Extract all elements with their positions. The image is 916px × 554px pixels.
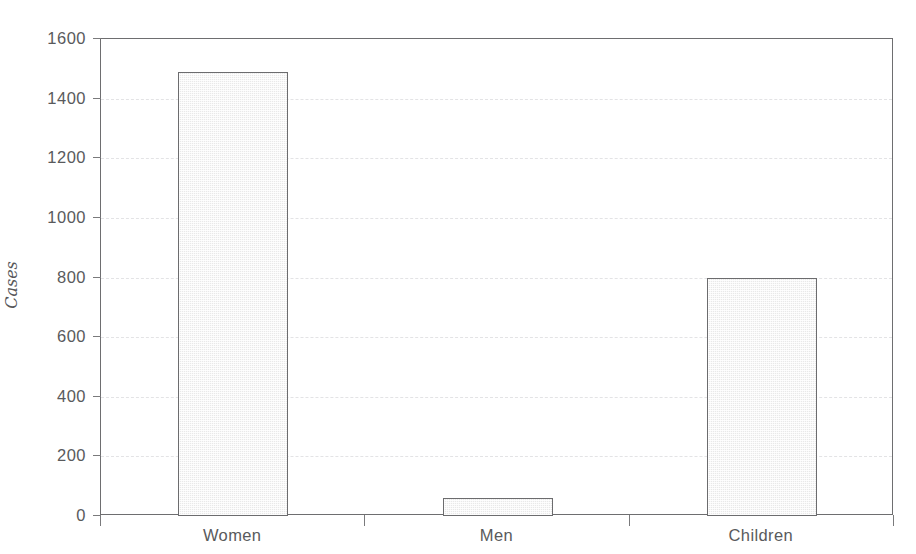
x-axis-end-tick <box>893 515 894 526</box>
y-axis-title: Cases <box>2 261 21 309</box>
y-axis-tick <box>93 98 101 99</box>
bar-women <box>178 72 288 516</box>
x-axis-end-tick <box>100 515 101 526</box>
y-axis-tick <box>93 336 101 337</box>
y-axis-tick-label: 600 <box>57 327 86 346</box>
x-axis-tick <box>629 515 630 526</box>
x-axis-tick <box>364 515 365 526</box>
y-axis-tick-label: 200 <box>57 446 86 465</box>
y-axis-tick-label: 400 <box>57 386 86 405</box>
y-axis-tick-label: 1200 <box>47 148 86 167</box>
y-axis-tick-label: 1600 <box>47 29 86 48</box>
y-axis-tick <box>93 38 101 39</box>
y-axis-tick <box>93 217 101 218</box>
y-axis-tick <box>93 396 101 397</box>
plot-area <box>100 38 893 515</box>
x-axis-tick-label: Children <box>729 526 794 545</box>
y-axis-tick-label: 1400 <box>47 88 86 107</box>
y-axis-tick-label: 1000 <box>47 207 86 226</box>
bar-chart: Cases 02004006008001000120014001600 Wome… <box>0 0 916 554</box>
y-axis-tick <box>93 157 101 158</box>
y-axis-tick-label: 800 <box>57 267 86 286</box>
x-axis-tick-label: Men <box>480 526 513 545</box>
bar-children <box>707 278 817 517</box>
bar-men <box>443 498 553 516</box>
y-axis-tick <box>93 455 101 456</box>
y-axis-tick-label: 0 <box>76 506 86 525</box>
x-axis-tick-label: Women <box>203 526 262 545</box>
y-axis-tick <box>93 277 101 278</box>
